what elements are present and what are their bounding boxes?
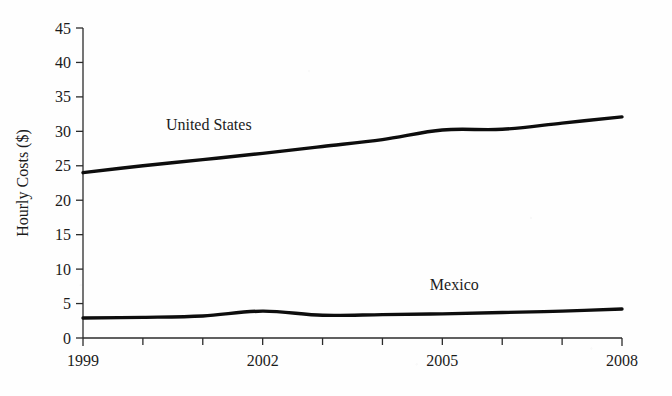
y-tick-label: 5 [63, 295, 71, 312]
y-tick-label: 30 [55, 123, 71, 140]
series-line-mexico [83, 309, 622, 318]
y-tick-label: 40 [55, 54, 71, 71]
series-annotation-group: United StatesMexico [166, 116, 479, 293]
y-axis-title: Hourly Costs ($) [14, 129, 32, 237]
series-label-united-states: United States [166, 116, 252, 133]
y-tick-label: 35 [55, 88, 71, 105]
series-label-mexico: Mexico [430, 276, 479, 293]
series-lines-group [83, 117, 622, 318]
y-tick-label: 15 [55, 226, 71, 243]
y-axis-ticks [76, 28, 83, 338]
chart-container: 051015202530354045 1999200220052008 Unit… [0, 0, 672, 396]
series-line-united-states [83, 117, 622, 173]
line-chart: 051015202530354045 1999200220052008 Unit… [0, 0, 672, 396]
x-tick-label: 2002 [247, 352, 279, 369]
x-tick-label: 1999 [67, 352, 99, 369]
y-tick-label: 0 [63, 330, 71, 347]
x-axis-tick-labels: 1999200220052008 [67, 352, 638, 369]
y-tick-label: 25 [55, 157, 71, 174]
y-tick-label: 10 [55, 261, 71, 278]
y-tick-label: 45 [55, 20, 71, 37]
y-tick-label: 20 [55, 192, 71, 209]
x-tick-label: 2008 [606, 352, 638, 369]
y-axis-tick-labels: 051015202530354045 [55, 20, 71, 347]
x-axis-ticks [83, 338, 622, 346]
x-tick-label: 2005 [426, 352, 458, 369]
